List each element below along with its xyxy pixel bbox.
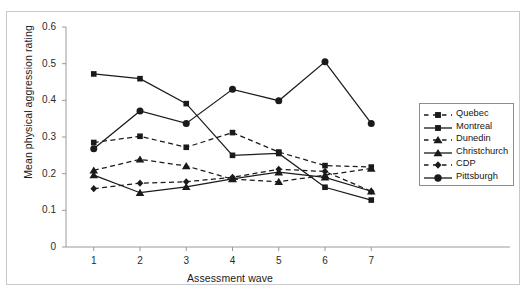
series-line [94,133,372,167]
marker-diamond [322,168,329,175]
marker-diamond [137,180,144,187]
marker-circle [183,120,190,127]
legend-key-triangle-icon [423,132,453,144]
legend-item-pittsburgh[interactable]: Pittsburgh [423,170,508,183]
marker-diamond [183,178,190,185]
legend-label: Quebec [453,108,489,118]
series-line [94,62,372,149]
legend-label: Montreal [453,121,492,131]
legend-item-montreal[interactable]: Montreal [423,120,508,133]
x-tick-label: 3 [174,255,198,266]
marker-triangle [182,162,191,169]
marker-diamond [275,166,282,173]
x-tick-label: 6 [313,255,337,266]
legend-key-square-icon [423,107,453,119]
x-axis-title: Assessment wave [60,272,400,284]
marker-triangle [367,165,376,172]
marker-square [435,112,441,118]
y-tick-label: 0.2 [24,168,56,179]
marker-square [137,76,143,82]
x-tick-label: 1 [82,255,106,266]
marker-square [91,140,97,146]
marker-square [183,101,189,107]
marker-square [183,144,189,150]
legend-label: Dunedin [453,133,491,143]
y-tick-label: 0.6 [24,21,56,32]
marker-square [137,133,143,139]
marker-diamond [90,185,97,192]
y-tick-label: 0.1 [24,204,56,215]
legend-key-square-icon [423,120,453,132]
y-tick-label: 0.3 [24,131,56,142]
y-tick-label: 0.5 [24,58,56,69]
legend-label: CDP [453,158,476,168]
marker-circle [322,58,329,65]
marker-circle [275,97,282,104]
series-pittsburgh [90,58,375,152]
y-tick-label: 0 [24,241,56,252]
y-tick-label: 0.4 [24,94,56,105]
marker-square [322,184,328,190]
marker-diamond [435,161,442,169]
marker-circle [229,86,236,93]
marker-circle [137,107,144,114]
marker-square [435,125,441,131]
chart-legend: QuebecMontrealDunedinChristchurchCDPPitt… [419,103,514,186]
legend-item-christchurch[interactable]: Christchurch [423,145,508,158]
marker-circle [90,145,97,152]
legend-key-diamond-icon [423,157,453,169]
marker-square [322,163,328,169]
legend-item-dunedin[interactable]: Dunedin [423,132,508,145]
marker-square [91,71,97,77]
marker-square [276,151,282,157]
x-tick-label: 4 [221,255,245,266]
legend-label: Pittsburgh [453,171,498,181]
x-tick-label: 2 [128,255,152,266]
legend-key-circle-icon [423,170,453,182]
marker-triangle [136,155,145,162]
series-quebec [91,130,374,170]
legend-item-quebec[interactable]: Quebec [423,107,508,120]
marker-circle [434,174,441,181]
marker-square [230,130,236,136]
legend-key-triangle-icon [423,145,453,157]
figure-container: Mean physical aggression rating Assessme… [0,0,528,296]
x-tick-label: 5 [267,255,291,266]
marker-square [230,153,236,159]
marker-square [368,197,374,203]
legend-item-cdp[interactable]: CDP [423,157,508,170]
marker-circle [368,120,375,127]
x-tick-label: 7 [359,255,383,266]
legend-label: Christchurch [453,146,508,156]
